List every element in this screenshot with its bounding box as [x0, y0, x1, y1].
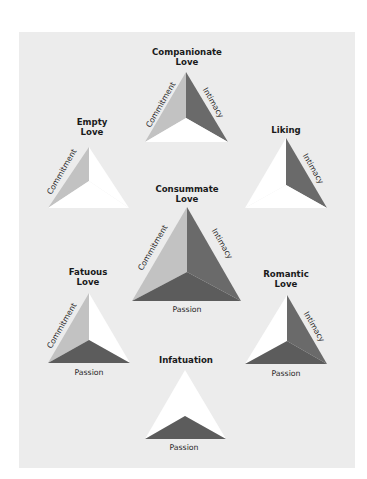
triangle-empty: Empty Love Commitment — [45, 117, 129, 208]
title-line1: Companionate — [152, 47, 222, 57]
title-line2: Love — [176, 57, 199, 67]
love-triangles-diagram: Companionate Love Commitment Intimacy Em… — [0, 0, 367, 479]
label-passion: Passion — [74, 368, 103, 377]
title-line2: Love — [176, 194, 199, 204]
label-passion: Passion — [172, 305, 201, 314]
title-line1: Consummate — [155, 184, 218, 194]
triangle-infatuation: Infatuation Passion — [145, 355, 226, 452]
triangle-fatuous: Fatuous Love Commitment Passion — [45, 267, 130, 377]
triangle-companionate: Companionate Love Commitment Intimacy — [144, 47, 228, 142]
label-passion: Passion — [271, 369, 300, 378]
title-line2: Love — [81, 127, 104, 137]
triangle-consummate: Consummate Love Commitment Intimacy Pass… — [132, 184, 241, 314]
title-line2: Love — [77, 277, 100, 287]
title: Infatuation — [159, 355, 213, 365]
title-line1: Fatuous — [69, 267, 108, 277]
label-passion: Passion — [169, 443, 198, 452]
title-line1: Empty — [77, 117, 108, 127]
title-line2: Love — [275, 279, 298, 289]
triangle-romantic: Romantic Love Intimacy Passion — [245, 269, 327, 378]
title-line1: Romantic — [263, 269, 309, 279]
title: Liking — [271, 125, 300, 135]
triangle-liking: Liking Intimacy — [245, 125, 327, 208]
